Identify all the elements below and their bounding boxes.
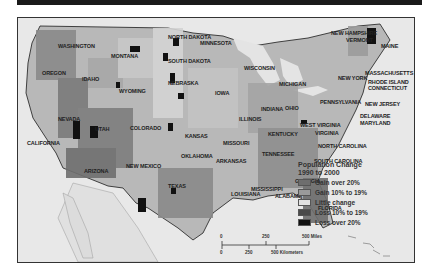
state-label-idaho: IDAHO — [82, 76, 99, 82]
legend-item-gain-10-19: Gain 10% to 19% — [298, 188, 408, 197]
top-dark-bar — [17, 0, 422, 5]
state-label-arizona: ARIZONA — [84, 168, 108, 174]
state-label-missouri: MISSOURI — [223, 140, 249, 146]
scale-miles-end: 500 Miles — [302, 234, 322, 239]
state-label-arkansas: ARKANSAS — [216, 158, 246, 164]
state-label-maine: MAINE — [381, 43, 398, 49]
scale-km-mid: 250 — [245, 250, 253, 255]
scale-miles-zero: 0 — [220, 234, 223, 239]
legend-item-loss-over-20: Loss over 20% — [298, 218, 408, 227]
legend-item-little-change: Little change — [298, 198, 408, 207]
state-label-new-mexico: NEW MEXICO — [126, 163, 161, 169]
state-label-iowa: IOWA — [215, 90, 229, 96]
state-label-kentucky: KENTUCKY — [268, 131, 298, 137]
map-frame: WASHINGTONOREGONIDAHOMONTANAWYOMINGNORTH… — [17, 17, 415, 263]
state-label-nevada: NEVADA — [58, 116, 80, 122]
state-label-new-york: NEW YORK — [338, 75, 367, 81]
state-label-mississippi: MISSISSIPPI — [251, 186, 283, 192]
legend-label: Little change — [315, 199, 355, 206]
state-label-new-jersey: NEW JERSEY — [365, 101, 400, 107]
state-label-michigan: MICHIGAN — [279, 81, 306, 87]
state-label-colorado: COLORADO — [130, 125, 161, 131]
state-label-oklahoma: OKLAHOMA — [181, 153, 213, 159]
state-label-minnesota: MINNESOTA — [200, 40, 232, 46]
state-label-montana: MONTANA — [111, 53, 138, 59]
scale-miles-mid: 250 — [262, 234, 270, 239]
state-label-utah: UTAH — [95, 126, 109, 132]
swatch-loss-over-20 — [298, 219, 311, 226]
swatch-little-change — [298, 199, 311, 206]
state-label-west-virginia: WEST VIRGINIA — [300, 122, 341, 128]
swatch-loss-10-19 — [298, 209, 311, 216]
swatch-gain-10-19 — [298, 189, 311, 196]
state-label-indiana: INDIANA — [261, 106, 283, 112]
state-label-maryland: MARYLAND — [360, 120, 390, 126]
state-label-pennsylvania: PENNSYLVANIA — [320, 99, 361, 105]
legend-item-gain-over-20: Gain over 20% — [298, 178, 408, 187]
state-label-texas: TEXAS — [168, 183, 186, 189]
swatch-gain-over-20 — [298, 179, 311, 186]
state-label-connecticut: CONNECTICUT — [368, 85, 407, 91]
state-label-delaware: DELAWARE — [360, 113, 390, 119]
state-label-south-dakota: SOUTH DAKOTA — [168, 58, 211, 64]
state-label-vermont: VERMONT — [346, 37, 373, 43]
legend-label: Gain 10% to 19% — [315, 189, 367, 196]
state-label-virginia: VIRGINIA — [315, 130, 339, 136]
legend-item-loss-10-19: Loss 10% to 19% — [298, 208, 408, 217]
legend-label: Loss over 20% — [315, 219, 361, 226]
state-label-tennessee: TENNESSEE — [262, 151, 294, 157]
scale-bar: 0 250 500 Miles 0 250 500 Kilometers — [219, 233, 319, 257]
legend-label: Gain over 20% — [315, 179, 360, 186]
state-label-oregon: OREGON — [42, 70, 66, 76]
state-label-washington: WASHINGTON — [58, 43, 95, 49]
state-label-kansas: KANSAS — [185, 133, 208, 139]
state-label-new-hampshire: NEW HAMPSHIRE — [331, 30, 377, 36]
state-label-north-carolina: NORTH CAROLINA — [318, 143, 367, 149]
legend: Population Change 1990 to 2000 Gain over… — [298, 161, 408, 227]
state-label-ohio: OHIO — [285, 105, 299, 111]
scale-km-zero: 0 — [220, 250, 223, 255]
legend-title: Population Change — [298, 161, 408, 169]
legend-label: Loss 10% to 19% — [315, 209, 368, 216]
scale-km-end: 500 Kilometers — [271, 250, 303, 255]
state-label-wyoming: WYOMING — [119, 88, 146, 94]
state-label-wisconsin: WISCONSIN — [244, 65, 275, 71]
state-label-massachusetts: MASSACHUSETTS — [365, 70, 413, 76]
state-label-california: CALIFORNIA — [27, 140, 60, 146]
legend-subtitle: 1990 to 2000 — [298, 169, 408, 177]
state-label-nebraska: NEBRASKA — [168, 80, 198, 86]
state-label-illinois: ILLINOIS — [239, 116, 261, 122]
